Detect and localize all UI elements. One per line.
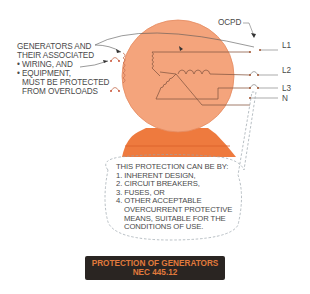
note-line: • EQUIPMENT, (17, 69, 109, 78)
line-label-l3: L3 (282, 84, 291, 93)
line-label-l1: L1 (282, 41, 291, 50)
ocpd-label: OCPD (218, 18, 241, 27)
protection-methods: THIS PROTECTION CAN BE BY: 1. INHERENT D… (116, 163, 232, 232)
generators-note: GENERATORS AND THEIR ASSOCIATED • WIRING… (17, 42, 109, 96)
note-line: GENERATORS AND (17, 42, 109, 51)
line-label-l2: L2 (282, 66, 291, 75)
note-line: FROM OVERLOADS (17, 87, 109, 96)
note-line: THEIR ASSOCIATED (17, 51, 109, 60)
note-line: MUST BE PROTECTED (17, 78, 109, 87)
line-label-n: N (282, 94, 288, 103)
note-line: • WIRING, AND (17, 60, 109, 69)
title-banner: PROTECTION OF GENERATORS NEC 445.12 (85, 256, 225, 280)
banner-title: PROTECTION OF GENERATORS (85, 259, 225, 268)
banner-code: NEC 445.12 (85, 268, 225, 277)
protection-item: CONDITIONS OF USE. (116, 223, 232, 232)
output-lines (243, 23, 278, 98)
